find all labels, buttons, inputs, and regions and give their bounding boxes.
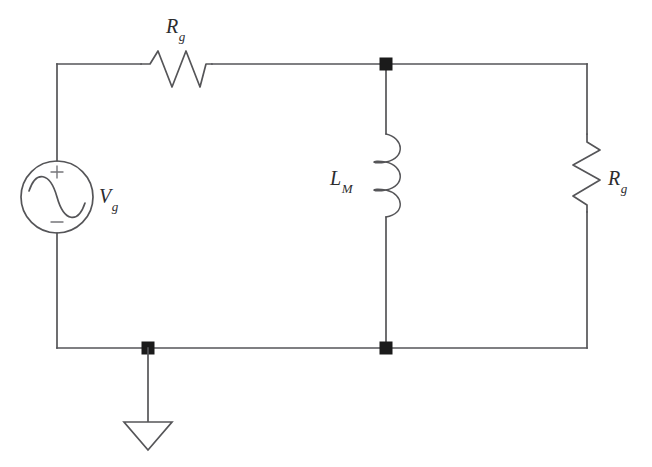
- bottom-center-node-dot: [380, 342, 392, 354]
- top-center-node-dot: [380, 58, 392, 70]
- voltage-source-symbol: [21, 161, 93, 233]
- load-resistor-label: Rg: [608, 168, 627, 192]
- circuit-diagram: Rg Vg LM Rg: [0, 0, 652, 467]
- series-resistor-symbol: [141, 51, 212, 87]
- ground-symbol: [124, 348, 172, 450]
- inductor-label: LM: [330, 168, 352, 192]
- voltage-source-label: Vg: [99, 186, 118, 210]
- load-resistor-symbol: [573, 134, 600, 212]
- schematic-canvas: [0, 0, 652, 467]
- series-resistor-label: Rg: [166, 16, 185, 40]
- inductor-symbol: [374, 134, 400, 217]
- source-plus-icon: [51, 166, 63, 178]
